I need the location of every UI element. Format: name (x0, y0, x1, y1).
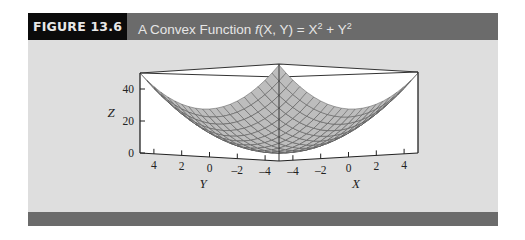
x-tick-label: –4 (286, 165, 299, 177)
z-tick-label: 20 (123, 115, 135, 127)
surface-plot: 420–2–4–4–202402040YXZ (0, 0, 525, 240)
z-axis-title: Z (107, 105, 115, 120)
y-tick-label: –4 (258, 165, 271, 177)
y-tick-label: 2 (179, 160, 185, 172)
y-tick-label: 4 (151, 159, 157, 171)
x-axis-title: X (351, 176, 361, 191)
y-tick-label: –2 (231, 164, 244, 176)
y-axis-title: Y (199, 176, 208, 191)
x-tick-label: 4 (401, 159, 407, 171)
x-tick-label: –2 (314, 164, 327, 176)
y-tick-label: 0 (207, 162, 213, 174)
z-tick-label: 40 (123, 83, 135, 95)
x-tick-label: 0 (346, 162, 352, 174)
x-tick-label: 2 (373, 160, 379, 172)
z-tick-label: 0 (128, 147, 134, 159)
